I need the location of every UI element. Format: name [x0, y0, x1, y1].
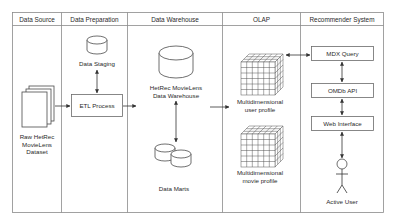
web-interface-node: Web Interface [312, 117, 374, 131]
omdb-api-node: OMDb API [312, 84, 374, 98]
movie-profile-label-line2: movie profile [242, 177, 278, 184]
data-staging-node: Data Staging [79, 36, 115, 67]
active-user-node: Active User [326, 159, 358, 205]
active-user-label: Active User [326, 198, 358, 205]
cube-icon [241, 126, 283, 167]
data-warehouse-label-line2: Data Warehouse [153, 92, 200, 99]
mdx-query-label: MDX Query [326, 50, 359, 57]
database-icon [87, 36, 107, 54]
cube-icon [241, 54, 283, 95]
raw-dataset-node: Raw HetRec MovieLens Dataset [20, 86, 55, 155]
databases-icon [155, 144, 191, 167]
column-header-data-source: Data Source [19, 16, 55, 23]
web-interface-label: Web Interface [323, 120, 362, 127]
movie-profile-node: Multidimensional movie profile [237, 126, 283, 184]
document-stack-icon [22, 86, 54, 127]
architecture-diagram: Data Source Data Preparation Data Wareho… [0, 0, 399, 224]
etl-process-label: ETL Process [79, 102, 114, 109]
mdx-query-node: MDX Query [312, 47, 374, 61]
data-staging-label: Data Staging [79, 60, 115, 67]
etl-process-node: ETL Process [72, 95, 123, 117]
data-warehouse-node: HetRec MovieLens Data Warehouse [150, 46, 202, 99]
omdb-api-label: OMDb API [328, 87, 358, 94]
data-marts-label: Data Marts [159, 185, 189, 192]
data-warehouse-label-line1: HetRec MovieLens [150, 84, 202, 91]
database-icon [159, 46, 193, 78]
column-header-data-warehouse: Data Warehouse [151, 16, 199, 23]
data-marts-node: Data Marts [155, 144, 191, 192]
swimlane-frame [13, 13, 384, 213]
raw-dataset-label-line3: Dataset [26, 148, 48, 155]
movie-profile-label-line1: Multidimensional [237, 169, 283, 176]
user-profile-label-line1: Multidimensional [237, 98, 283, 105]
user-profile-node: Multidimensional user profile [237, 54, 283, 113]
column-header-recommender-system: Recommender System [310, 16, 375, 24]
column-header-data-preparation: Data Preparation [70, 16, 119, 24]
raw-dataset-label-line1: Raw HetRec [20, 133, 55, 140]
user-profile-label-line2: user profile [245, 106, 276, 113]
raw-dataset-label-line2: MovieLens [22, 141, 52, 148]
actor-icon [336, 159, 348, 193]
column-header-olap: OLAP [253, 16, 270, 23]
